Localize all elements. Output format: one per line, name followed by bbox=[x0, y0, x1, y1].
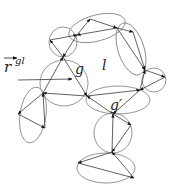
edge-J-I bbox=[87, 90, 140, 96]
edge-O-P bbox=[112, 125, 131, 152]
edge-J-K bbox=[43, 93, 87, 96]
edge-B-A bbox=[50, 40, 63, 57]
edge-H-I bbox=[140, 77, 165, 90]
edge-D-G bbox=[117, 28, 145, 70]
right-circle bbox=[142, 68, 166, 92]
edge-Q-R bbox=[78, 163, 134, 178]
edge-L-M bbox=[18, 114, 45, 128]
group-label-g: g bbox=[75, 61, 84, 77]
diagram-canvas: r gl g l g′ bbox=[0, 0, 176, 186]
edge-E-D bbox=[90, 19, 117, 28]
bottom-ellipse bbox=[77, 153, 135, 183]
edge-F-G bbox=[133, 32, 145, 70]
vector-label-r: r bbox=[4, 58, 12, 76]
edge-D-C bbox=[77, 28, 117, 35]
group-label-g-prime: g′ bbox=[110, 97, 123, 113]
vector-arrow bbox=[18, 79, 72, 80]
vector-label-superscript: gl bbox=[15, 55, 25, 66]
left-ellipse bbox=[16, 85, 50, 144]
edge-K-L bbox=[18, 93, 43, 114]
top-ellipse bbox=[66, 8, 129, 48]
edge-A-C bbox=[50, 35, 77, 40]
edge-P-N bbox=[112, 114, 113, 152]
edge-M-K bbox=[43, 93, 45, 128]
region-label-l: l bbox=[102, 57, 106, 73]
